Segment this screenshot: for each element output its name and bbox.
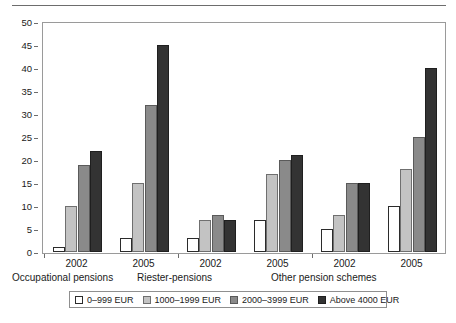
legend-label: 1000–1999 EUR: [155, 295, 222, 305]
y-tick-label: 10: [21, 202, 32, 212]
y-tick-mark: [34, 184, 38, 185]
y-tick-label: 15: [21, 179, 32, 189]
top-divider-rule: [12, 5, 446, 6]
legend-label: 0–999 EUR: [87, 295, 134, 305]
x-axis-group-separator: [312, 254, 313, 258]
legend: 0–999 EUR1000–1999 EUR2000–3999 EURAbove…: [69, 291, 387, 308]
bar: [132, 183, 144, 252]
y-tick-mark: [34, 253, 38, 254]
legend-swatch: [75, 296, 83, 304]
x-tick-label-year: 2002: [333, 258, 355, 270]
legend-label: Above 4000 EUR: [330, 295, 400, 305]
legend-item: 1000–1999 EUR: [143, 295, 222, 305]
bar: [400, 169, 412, 252]
bar: [65, 206, 77, 252]
y-tick-label: 30: [21, 110, 32, 120]
y-tick-label: 20: [21, 156, 32, 166]
bar: [212, 215, 224, 252]
x-tick-label-year: 2005: [400, 258, 422, 270]
bar: [157, 45, 169, 252]
bar: [187, 238, 199, 252]
legend-item: Above 4000 EUR: [318, 295, 400, 305]
bar: [199, 220, 211, 252]
bar: [266, 174, 278, 252]
plot-area: [42, 22, 446, 254]
y-tick-label: 50: [21, 18, 32, 28]
bar: [90, 151, 102, 252]
legend-item: 0–999 EUR: [75, 295, 134, 305]
y-tick-label: 35: [21, 87, 32, 97]
legend-swatch: [143, 296, 151, 304]
bar: [358, 183, 370, 252]
bar: [333, 215, 345, 252]
bar: [321, 229, 333, 252]
bar: [145, 105, 157, 252]
y-tick-label: 25: [21, 133, 32, 143]
legend-swatch: [318, 296, 326, 304]
y-tick-mark: [34, 138, 38, 139]
y-tick-mark: [34, 23, 38, 24]
y-tick-mark: [34, 69, 38, 70]
y-tick-mark: [34, 115, 38, 116]
x-axis-category-label: Other pension schemes: [271, 272, 377, 284]
bar: [291, 155, 303, 252]
x-axis-category-label: Occupational pensions: [12, 272, 113, 284]
bars-layer: [44, 24, 444, 252]
x-tick-label-year: 2005: [266, 258, 288, 270]
y-tick-label: 5: [27, 225, 32, 235]
bar: [254, 220, 266, 252]
y-tick-label: 0: [27, 248, 32, 258]
x-tick-label-year: 2002: [65, 258, 87, 270]
bar: [425, 68, 437, 252]
bar: [224, 220, 236, 252]
bar: [78, 165, 90, 252]
bar: [413, 137, 425, 252]
x-tick-label-year: 2005: [132, 258, 154, 270]
bar: [120, 238, 132, 252]
y-tick-mark: [34, 230, 38, 231]
y-tick-mark: [34, 46, 38, 47]
legend-swatch: [230, 296, 238, 304]
bar: [53, 247, 65, 252]
y-tick-label: 40: [21, 64, 32, 74]
legend-item: 2000–3999 EUR: [230, 295, 309, 305]
x-axis-category-label: Riester-pensions: [137, 272, 212, 284]
y-tick-mark: [34, 161, 38, 162]
legend-label: 2000–3999 EUR: [242, 295, 309, 305]
x-tick-label-year: 2002: [199, 258, 221, 270]
x-axis-group-separator: [178, 254, 179, 258]
y-tick-mark: [34, 207, 38, 208]
bar: [388, 206, 400, 252]
y-tick-label: 45: [21, 41, 32, 51]
bar: [279, 160, 291, 252]
bar: [346, 183, 358, 252]
x-axis-group-separator: [44, 254, 45, 258]
y-tick-mark: [34, 92, 38, 93]
y-axis: 05101520253035404550: [0, 22, 38, 254]
chart-figure: 05101520253035404550 2002200520022005200…: [0, 0, 456, 323]
